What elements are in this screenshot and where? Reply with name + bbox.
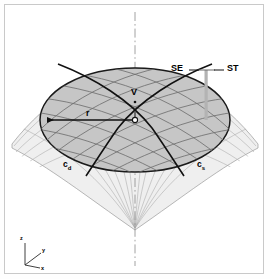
label-curve-cs: cs	[197, 160, 205, 171]
label-st: ST	[227, 64, 239, 73]
figure-container: SE ST V r cd cs z y x	[0, 0, 270, 279]
axis-label-y: y	[42, 248, 45, 254]
label-vertex: V	[131, 88, 137, 97]
axis-label-x: x	[41, 266, 44, 272]
axis-label-z: z	[20, 236, 23, 242]
vertex-marker	[134, 101, 137, 104]
shell-surface-drawing	[0, 0, 270, 279]
label-curve-cd-sub: d	[68, 165, 72, 171]
coordinate-axes-triad	[25, 243, 41, 268]
center-point-marker	[132, 117, 137, 122]
label-curve-cs-sub: s	[202, 165, 205, 171]
label-se: SE	[171, 64, 183, 73]
label-curve-cd: cd	[63, 160, 71, 171]
label-radius: r	[86, 109, 89, 118]
